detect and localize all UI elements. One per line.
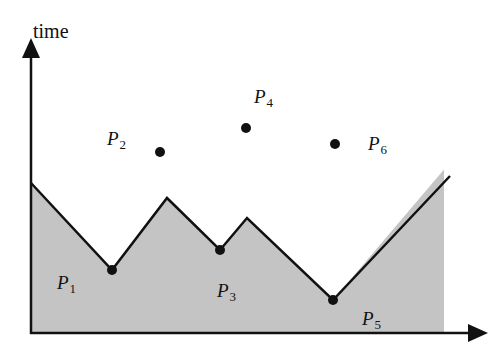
point-marker-p1 bbox=[107, 265, 117, 275]
time-diagram: time P1P2P3P4P5P6 bbox=[0, 0, 499, 360]
y-axis-label: time bbox=[33, 20, 69, 43]
point-marker-p4 bbox=[241, 123, 251, 133]
point-letter: P bbox=[217, 280, 229, 301]
point-letter: P bbox=[254, 86, 266, 107]
point-label-p5: P5 bbox=[362, 308, 381, 333]
point-label-p1: P1 bbox=[57, 272, 76, 297]
point-marker-p6 bbox=[330, 139, 340, 149]
x-axis-arrow-icon bbox=[468, 324, 488, 342]
point-subscript: 4 bbox=[267, 95, 274, 110]
point-letter: P bbox=[57, 272, 69, 293]
point-label-p3: P3 bbox=[217, 280, 236, 305]
point-subscript: 1 bbox=[70, 281, 77, 296]
point-subscript: 5 bbox=[375, 317, 382, 332]
point-label-p4: P4 bbox=[254, 86, 273, 111]
point-letter: P bbox=[362, 308, 374, 329]
point-subscript: 3 bbox=[230, 289, 237, 304]
point-marker-p5 bbox=[328, 295, 338, 305]
point-subscript: 6 bbox=[381, 142, 388, 157]
point-letter: P bbox=[368, 133, 380, 154]
point-marker-p2 bbox=[155, 147, 165, 157]
diagram-canvas bbox=[0, 0, 499, 360]
point-label-p2: P2 bbox=[107, 128, 126, 153]
point-marker-p3 bbox=[215, 245, 225, 255]
point-letter: P bbox=[107, 128, 119, 149]
point-label-p6: P6 bbox=[368, 133, 387, 158]
point-subscript: 2 bbox=[120, 137, 127, 152]
